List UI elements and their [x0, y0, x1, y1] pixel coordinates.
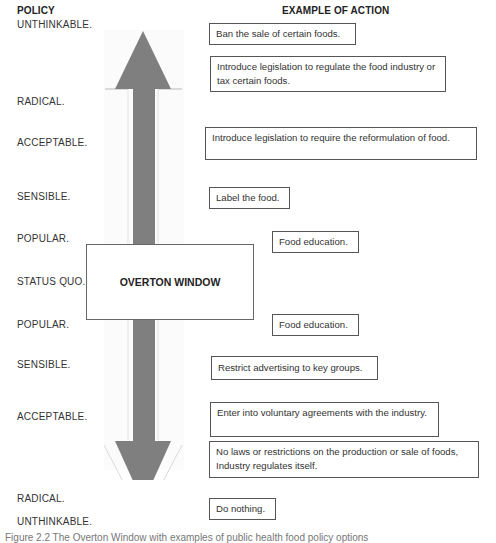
action-text: Enter into voluntary agreements with the…: [217, 407, 427, 418]
action-text: Restrict advertising to key groups.: [218, 361, 363, 375]
action-restrict-advertising: Restrict advertising to key groups.: [211, 356, 378, 380]
level-sensible-bottom: SENSIBLE.: [17, 359, 71, 370]
level-status-quo: STATUS QUO.: [17, 276, 86, 287]
action-header: EXAMPLE OF ACTION: [282, 5, 389, 16]
action-text: Introduce legislation to regulate the fo…: [217, 61, 435, 86]
action-text: Label the food.: [216, 191, 279, 205]
action-text: Do nothing.: [216, 502, 265, 516]
policy-header: POLICY: [17, 5, 55, 16]
level-acceptable-bottom: ACCEPTABLE.: [17, 411, 87, 422]
action-text: Food education.: [279, 318, 348, 332]
action-text: Introduce legislation to require the ref…: [212, 132, 450, 143]
action-label-food: Label the food.: [209, 187, 290, 209]
action-reformulation: Introduce legislation to require the ref…: [205, 127, 477, 160]
level-radical-bottom: RADICAL.: [17, 493, 65, 504]
overton-window-box: OVERTON WINDOW: [86, 244, 254, 320]
level-unthinkable-bottom: UNTHINKABLE.: [17, 516, 92, 527]
level-unthinkable-top: UNTHINKABLE.: [17, 19, 92, 30]
action-no-laws: No laws or restrictions on the productio…: [209, 441, 479, 478]
level-acceptable-top: ACCEPTABLE.: [17, 137, 87, 148]
action-food-education-bottom: Food education.: [272, 314, 359, 336]
action-voluntary-agreements: Enter into voluntary agreements with the…: [210, 402, 439, 437]
action-do-nothing: Do nothing.: [209, 498, 276, 520]
action-ban-sale: Ban the sale of certain foods.: [209, 23, 356, 45]
figure-caption: Figure 2.2 The Overton Window with examp…: [5, 532, 368, 543]
overton-window-label: OVERTON WINDOW: [120, 276, 221, 288]
action-text: No laws or restrictions on the productio…: [216, 446, 458, 471]
level-radical-top: RADICAL.: [17, 96, 65, 107]
action-regulate-tax: Introduce legislation to regulate the fo…: [210, 56, 446, 92]
action-text: Ban the sale of certain foods.: [216, 27, 340, 41]
action-text: Food education.: [279, 235, 348, 249]
level-popular-top: POPULAR.: [17, 233, 69, 244]
level-popular-bottom: POPULAR.: [17, 319, 69, 330]
level-sensible-top: SENSIBLE.: [17, 191, 71, 202]
action-food-education-top: Food education.: [272, 231, 359, 253]
